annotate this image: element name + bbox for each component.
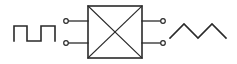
output-terminal-top bbox=[161, 19, 166, 24]
diagram-canvas bbox=[0, 0, 237, 64]
converter-diagram bbox=[0, 0, 237, 64]
square-wave-input-icon bbox=[14, 26, 55, 41]
triangle-wave-output-icon bbox=[170, 24, 226, 38]
input-terminal-top bbox=[64, 19, 69, 24]
output-terminal-bottom bbox=[161, 41, 166, 46]
input-terminal-bottom bbox=[64, 41, 69, 46]
